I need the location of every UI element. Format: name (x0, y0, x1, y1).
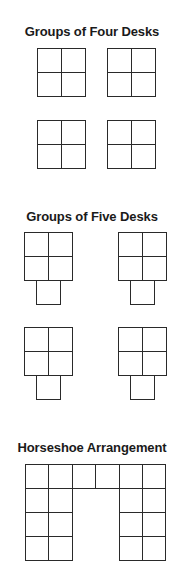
desk (130, 375, 155, 400)
desk (48, 464, 73, 489)
desk (131, 144, 156, 169)
desk (48, 351, 73, 376)
desk (37, 120, 62, 145)
desk (48, 512, 73, 537)
desk (118, 232, 143, 257)
desk (142, 536, 166, 561)
classroom-desk-arrangements-diagram: Groups of Four Desks Groups of Five Desk… (0, 0, 184, 569)
desk (61, 48, 86, 73)
desk (36, 375, 61, 400)
desk (119, 536, 143, 561)
desk (48, 488, 73, 513)
desk (142, 327, 167, 352)
desk (48, 256, 73, 281)
desk (24, 327, 49, 352)
desk (25, 464, 49, 489)
desk (72, 464, 96, 489)
desk (61, 144, 86, 169)
desk (119, 464, 143, 489)
desk (142, 464, 166, 489)
title-groups-of-four: Groups of Four Desks (0, 24, 184, 40)
desk (142, 351, 167, 376)
desk (24, 232, 49, 257)
desk (25, 488, 49, 513)
desk (142, 512, 166, 537)
desk (48, 536, 73, 561)
desk (61, 120, 86, 145)
desk (48, 327, 73, 352)
desk (131, 120, 156, 145)
desk (119, 488, 143, 513)
desk (25, 536, 49, 561)
desk (24, 256, 49, 281)
desk (119, 512, 143, 537)
desk (36, 280, 61, 305)
desk (61, 72, 86, 97)
desk (142, 256, 167, 281)
desk (37, 72, 62, 97)
desk (24, 351, 49, 376)
desk (131, 72, 156, 97)
desk (107, 144, 132, 169)
desk (107, 72, 132, 97)
desk (37, 144, 62, 169)
desk (25, 512, 49, 537)
desk (37, 48, 62, 73)
title-horseshoe: Horseshoe Arrangement (0, 440, 184, 456)
desk (142, 488, 166, 513)
desk (142, 232, 167, 257)
desk (107, 120, 132, 145)
title-groups-of-five: Groups of Five Desks (0, 209, 184, 225)
desk (118, 256, 143, 281)
desk (130, 280, 155, 305)
desk (118, 351, 143, 376)
desk (118, 327, 143, 352)
desk (131, 48, 156, 73)
desk (95, 464, 120, 489)
desk (107, 48, 132, 73)
desk (48, 232, 73, 257)
